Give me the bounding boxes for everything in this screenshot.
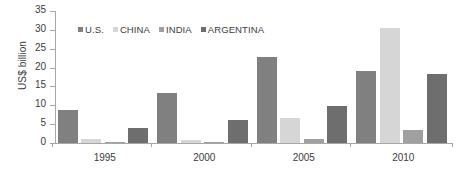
y-tick: 15 [50,86,55,87]
legend-item-argentina[interactable]: ARGENTINA [201,24,264,35]
x-tick [350,143,351,147]
bar-india-2010 [403,130,423,143]
legend-label: CHINA [120,24,150,35]
y-tick-label: 25 [35,42,46,53]
bar-china-2005 [280,118,300,143]
bar-us-2000 [157,93,177,143]
legend-item-india[interactable]: INDIA [159,24,192,35]
legend-label: INDIA [166,24,192,35]
chart-legend: U.S.CHINAINDIAARGENTINA [78,24,264,35]
legend-item-china[interactable]: CHINA [113,24,150,35]
bar-india-2000 [204,142,224,143]
y-tick: 5 [50,124,55,125]
bar-us-1995 [58,110,78,143]
legend-swatch-icon [159,27,164,32]
legend-swatch-icon [113,27,118,32]
bar-us-2010 [356,71,376,143]
bar-chart: US$ billion 05101520253035 1995200020052… [0,0,461,173]
legend-label: U.S. [85,24,104,35]
x-axis-line [55,143,453,144]
legend-swatch-icon [78,27,83,32]
y-tick: 35 [50,11,55,12]
legend-item-us[interactable]: U.S. [78,24,104,35]
bar-argentina-2005 [327,106,347,143]
x-tick-label: 2010 [392,152,414,163]
y-tick-label: 15 [35,79,46,90]
x-tick [452,143,453,147]
x-tick [251,143,252,147]
y-tick-label: 35 [35,4,46,15]
bar-us-2005 [257,57,277,143]
x-tick [151,143,152,147]
bar-argentina-2000 [228,120,248,143]
y-tick-label: 10 [35,98,46,109]
bar-argentina-2010 [427,74,447,143]
legend-label: ARGENTINA [208,24,264,35]
legend-swatch-icon [201,27,206,32]
y-tick-label: 0 [40,136,46,147]
bar-argentina-1995 [128,128,148,143]
y-axis-line [55,11,56,143]
y-axis-title: US$ billion [17,21,28,111]
y-tick-label: 30 [35,23,46,34]
bar-china-1995 [81,139,101,143]
x-tick-label: 2000 [193,152,215,163]
y-tick: 20 [50,68,55,69]
y-tick: 25 [50,49,55,50]
y-tick-label: 20 [35,61,46,72]
bar-china-2000 [181,140,201,143]
bar-china-2010 [380,28,400,143]
y-tick: 30 [50,30,55,31]
bar-india-2005 [304,139,324,143]
y-tick-label: 5 [40,117,46,128]
bar-india-1995 [105,142,125,143]
x-tick-label: 1995 [94,152,116,163]
y-tick: 10 [50,105,55,106]
x-tick [52,143,53,147]
x-tick-label: 2005 [293,152,315,163]
